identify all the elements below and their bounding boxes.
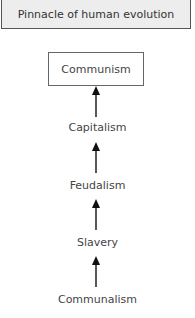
communism-label: Communism bbox=[61, 63, 130, 76]
pinnacle-header-box: Pinnacle of human evolution bbox=[1, 0, 191, 29]
feudalism-node: Feudalism bbox=[0, 179, 195, 193]
capitalism-node: Capitalism bbox=[0, 121, 195, 135]
pinnacle-header-text: Pinnacle of human evolution bbox=[18, 8, 175, 21]
slavery-node: Slavery bbox=[0, 236, 195, 250]
communism-node: Communism bbox=[48, 52, 144, 86]
arrow-up-icon bbox=[90, 86, 102, 118]
communalism-node: Communalism bbox=[0, 293, 195, 307]
arrow-up-icon bbox=[90, 199, 102, 231]
arrow-up-icon bbox=[90, 142, 102, 174]
arrow-up-icon bbox=[90, 256, 102, 288]
